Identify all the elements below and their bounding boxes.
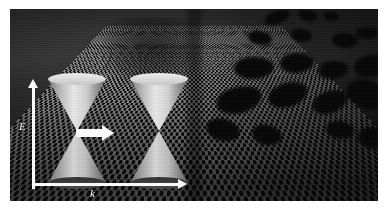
valence-cone bbox=[130, 131, 188, 183]
conduction-cone bbox=[130, 79, 188, 131]
momentum-axis-line bbox=[32, 183, 180, 186]
dirac-cone-right bbox=[130, 79, 188, 183]
energy-axis-arrowhead bbox=[28, 79, 38, 88]
momentum-axis-arrowhead bbox=[178, 179, 187, 189]
cone-top-rim bbox=[48, 73, 106, 85]
honeycomb-lattice-image: E k bbox=[10, 9, 378, 201]
figure-root: E k bbox=[0, 0, 390, 210]
energy-axis-line bbox=[32, 87, 35, 189]
energy-axis-label: E bbox=[19, 121, 26, 132]
conduction-cone bbox=[48, 79, 106, 131]
cone-top-rim bbox=[130, 73, 188, 85]
transition-arrow-shaft bbox=[76, 129, 104, 137]
transition-arrow bbox=[76, 125, 114, 141]
momentum-axis-label: k bbox=[90, 188, 95, 199]
transition-arrow-head bbox=[102, 125, 114, 141]
